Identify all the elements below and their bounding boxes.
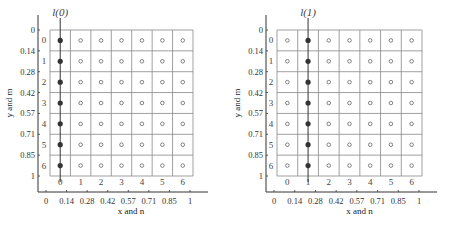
- col-index: 4: [368, 177, 373, 187]
- grid: [50, 30, 193, 176]
- filled-point: [58, 59, 63, 64]
- y-tick-label: 0.42: [248, 88, 263, 98]
- row-index: 6: [42, 161, 47, 171]
- open-point: [368, 122, 372, 126]
- open-point: [410, 122, 414, 126]
- open-point: [161, 143, 165, 147]
- y-tick-label: 0.71: [248, 129, 263, 139]
- open-point: [79, 39, 83, 43]
- col-index: 5: [160, 177, 165, 187]
- open-point: [79, 59, 83, 63]
- row-index: 3: [42, 98, 47, 108]
- x-axis-label: x and n: [346, 206, 373, 216]
- y-tick-label: 0.14: [20, 46, 36, 56]
- filled-point: [305, 38, 310, 43]
- x-tick-label: 1: [188, 196, 192, 206]
- open-point: [286, 39, 290, 43]
- open-point: [120, 164, 124, 168]
- filled-point: [58, 142, 63, 147]
- open-point: [161, 122, 165, 126]
- open-point: [99, 59, 103, 63]
- y-tick-label: 0.42: [20, 88, 35, 98]
- open-point: [286, 80, 290, 84]
- open-point: [99, 164, 103, 168]
- y-axis-label: y and m: [232, 89, 242, 118]
- open-point: [286, 143, 290, 147]
- panel-1: 00.140.280.420.570.710.85100.140.280.420…: [232, 6, 437, 216]
- filled-point: [58, 100, 63, 105]
- open-point: [348, 122, 352, 126]
- x-tick-label: 0: [44, 196, 48, 206]
- open-point: [140, 101, 144, 105]
- x-tick-label: 0.85: [162, 196, 177, 206]
- open-point: [181, 122, 185, 126]
- filled-point: [58, 80, 63, 85]
- y-tick-label: 0.14: [248, 46, 264, 56]
- col-index: 3: [119, 177, 124, 187]
- open-point: [181, 101, 185, 105]
- grid: [277, 30, 422, 176]
- open-point: [389, 143, 393, 147]
- open-point: [181, 59, 185, 63]
- col-index: 6: [409, 177, 414, 187]
- open-point: [161, 164, 165, 168]
- open-point: [286, 164, 290, 168]
- open-point: [99, 39, 103, 43]
- open-point: [99, 101, 103, 105]
- open-point: [140, 164, 144, 168]
- filled-point: [305, 80, 310, 85]
- open-point: [120, 101, 124, 105]
- open-point: [120, 39, 124, 43]
- open-point: [79, 80, 83, 84]
- x-tick-label: 0: [272, 196, 276, 206]
- open-point: [389, 59, 393, 63]
- open-point: [181, 164, 185, 168]
- open-point: [161, 101, 165, 105]
- row-index: 6: [269, 161, 274, 171]
- col-index: 4: [140, 177, 145, 187]
- x-tick-label: 0.71: [370, 196, 385, 206]
- panel-title: l(0): [52, 6, 68, 19]
- open-point: [79, 122, 83, 126]
- open-point: [389, 80, 393, 84]
- y-tick-label: 1: [31, 171, 35, 181]
- x-axis-label: x and n: [118, 206, 145, 216]
- open-point: [368, 164, 372, 168]
- y-tick-label: 0.71: [20, 129, 35, 139]
- col-index: 6: [181, 177, 186, 187]
- open-point: [410, 39, 414, 43]
- open-point: [348, 164, 352, 168]
- open-point: [181, 39, 185, 43]
- y-tick-label: 0: [31, 25, 35, 35]
- open-point: [410, 164, 414, 168]
- open-point: [161, 39, 165, 43]
- x-tick-label: 0.57: [121, 196, 136, 206]
- open-point: [348, 39, 352, 43]
- x-tick-label: 0.14: [59, 196, 75, 206]
- row-index: 1: [269, 56, 274, 66]
- y-tick-label: 0.28: [248, 67, 263, 77]
- open-point: [348, 143, 352, 147]
- open-point: [140, 122, 144, 126]
- open-point: [368, 143, 372, 147]
- open-point: [99, 143, 103, 147]
- open-point: [99, 122, 103, 126]
- filled-point: [305, 59, 310, 64]
- open-point: [348, 59, 352, 63]
- open-point: [161, 80, 165, 84]
- filled-point: [305, 142, 310, 147]
- col-index: 2: [327, 177, 332, 187]
- open-point: [410, 80, 414, 84]
- open-point: [161, 59, 165, 63]
- x-tick-label: 0.42: [100, 196, 115, 206]
- open-point: [99, 80, 103, 84]
- open-point: [120, 80, 124, 84]
- open-point: [348, 80, 352, 84]
- row-index: 0: [42, 35, 47, 45]
- open-point: [368, 39, 372, 43]
- open-point: [410, 143, 414, 147]
- x-tick-label: 0.71: [141, 196, 156, 206]
- y-tick-label: 1: [259, 171, 263, 181]
- filled-point: [305, 163, 310, 168]
- y-tick-label: 0.57: [248, 108, 263, 118]
